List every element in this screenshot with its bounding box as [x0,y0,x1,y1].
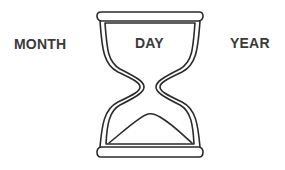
hourglass-top-cap [97,12,203,21]
month-label: MONTH [14,37,66,51]
hourglass-bottom-cap [97,147,203,157]
day-label: DAY [135,36,164,50]
hourglass-sand [109,114,192,143]
year-label: YEAR [230,36,270,50]
hourglass-icon [0,0,285,170]
